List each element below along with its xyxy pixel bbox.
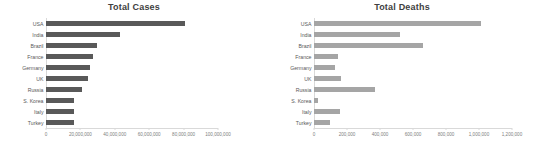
bar xyxy=(314,109,340,114)
x-tick-mark xyxy=(46,128,47,130)
category-axis-labels-total-deaths: USAIndiaBrazilFranceGermanyUKRussiaS. Ko… xyxy=(268,18,314,128)
x-tick-mark xyxy=(314,128,315,130)
category-label: Italy xyxy=(268,106,314,117)
bar xyxy=(46,120,74,125)
x-tick-label: 1,200,000 xyxy=(502,132,522,137)
x-tick-mark xyxy=(413,128,414,130)
category-label: Turkey xyxy=(268,117,314,128)
x-tick-mark xyxy=(347,128,348,130)
bar-row xyxy=(46,51,218,62)
x-tick-mark xyxy=(114,128,115,130)
bar-row xyxy=(314,29,512,40)
x-tick-label: 100,000,000 xyxy=(205,132,231,137)
x-tick-label: 20,000,000 xyxy=(69,132,92,137)
bar xyxy=(314,65,335,70)
chart-panel-total-cases: Total Cases USAIndiaBrazilFranceGermanyU… xyxy=(0,0,268,151)
category-label: Brazil xyxy=(268,40,314,51)
x-axis-ticks-total-cases: 020,000,00040,000,00060,000,00080,000,00… xyxy=(46,128,218,142)
category-label: UK xyxy=(268,73,314,84)
chart-title-total-deaths: Total Deaths xyxy=(268,2,536,12)
bar xyxy=(314,98,318,103)
category-label: Germany xyxy=(0,62,46,73)
bar xyxy=(314,120,330,125)
category-label: Russia xyxy=(268,84,314,95)
x-tick-label: 0 xyxy=(45,132,48,137)
bar xyxy=(46,32,120,37)
bar xyxy=(46,98,74,103)
x-tick-label: 400,000 xyxy=(372,132,389,137)
bar xyxy=(46,54,93,59)
bar-row xyxy=(46,18,218,29)
x-tick-label: 200,000 xyxy=(339,132,356,137)
bar-row xyxy=(46,62,218,73)
bar-row xyxy=(314,18,512,29)
bar xyxy=(314,43,423,48)
plot-area-total-cases xyxy=(46,18,218,128)
bar xyxy=(314,54,338,59)
bar xyxy=(314,87,375,92)
x-tick-label: 800,000 xyxy=(438,132,455,137)
dual-bar-chart-board: Total Cases USAIndiaBrazilFranceGermanyU… xyxy=(0,0,536,151)
bar-row xyxy=(314,95,512,106)
category-label: Russia xyxy=(0,84,46,95)
category-axis-labels-total-cases: USAIndiaBrazilFranceGermanyUKRussiaS. Ko… xyxy=(0,18,46,128)
category-label: France xyxy=(268,51,314,62)
chart-title-total-cases: Total Cases xyxy=(0,2,268,12)
x-tick-mark xyxy=(80,128,81,130)
bar-row xyxy=(46,40,218,51)
x-tick-mark xyxy=(183,128,184,130)
x-tick-label: 80,000,000 xyxy=(172,132,195,137)
category-label: India xyxy=(0,29,46,40)
x-tick-mark xyxy=(218,128,219,130)
category-label: USA xyxy=(0,18,46,29)
bar xyxy=(314,32,400,37)
category-label: Italy xyxy=(0,106,46,117)
plot-area-total-deaths xyxy=(314,18,512,128)
category-label: Brazil xyxy=(0,40,46,51)
bar-row xyxy=(46,84,218,95)
bar-row xyxy=(314,40,512,51)
chart-panel-total-deaths: Total Deaths USAIndiaBrazilFranceGermany… xyxy=(268,0,536,151)
x-tick-mark xyxy=(446,128,447,130)
category-label: France xyxy=(0,51,46,62)
bar-row xyxy=(314,51,512,62)
bar xyxy=(46,65,90,70)
category-label: S. Korea xyxy=(0,95,46,106)
bar-row xyxy=(46,95,218,106)
category-label: Turkey xyxy=(0,117,46,128)
x-axis-ticks-total-deaths: 0200,000400,000600,000800,0001,000,0001,… xyxy=(314,128,512,142)
bar-row xyxy=(46,73,218,84)
bar xyxy=(314,21,481,26)
category-label: UK xyxy=(0,73,46,84)
category-label: India xyxy=(268,29,314,40)
bar xyxy=(46,76,88,81)
bar xyxy=(46,21,185,26)
bar xyxy=(314,76,341,81)
bar-row xyxy=(46,117,218,128)
bar xyxy=(46,109,74,114)
bar-row xyxy=(314,106,512,117)
x-tick-label: 0 xyxy=(313,132,316,137)
bar-row xyxy=(314,73,512,84)
x-tick-mark xyxy=(149,128,150,130)
category-label: Germany xyxy=(268,62,314,73)
x-tick-label: 600,000 xyxy=(405,132,422,137)
bar-row xyxy=(46,106,218,117)
x-tick-label: 40,000,000 xyxy=(103,132,126,137)
x-tick-label: 1,000,000 xyxy=(469,132,489,137)
x-tick-label: 60,000,000 xyxy=(138,132,161,137)
x-tick-mark xyxy=(380,128,381,130)
bar-row xyxy=(314,84,512,95)
x-tick-mark xyxy=(512,128,513,130)
bar-row xyxy=(46,29,218,40)
x-tick-mark xyxy=(479,128,480,130)
bar-row xyxy=(314,117,512,128)
category-label: USA xyxy=(268,18,314,29)
bar xyxy=(46,87,82,92)
bar xyxy=(46,43,97,48)
bar-row xyxy=(314,62,512,73)
category-label: S. Korea xyxy=(268,95,314,106)
